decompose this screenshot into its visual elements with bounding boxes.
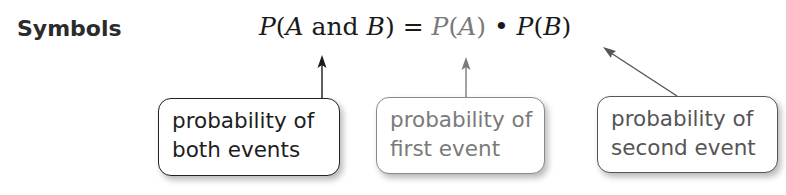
arrow-first-event [462,57,471,97]
arrow-second-event [603,47,677,96]
label-first-line2: first event [390,134,544,163]
label-both-line2: both events [172,135,339,164]
label-second-line2: second event [611,133,777,162]
label-box-second-event: probability of second event [597,96,778,173]
label-box-both-events: probability of both events [158,98,340,176]
arrow-second-head [603,47,616,58]
label-first-line1: probability of [390,105,544,134]
arrow-both-events [318,55,327,98]
label-both-line1: probability of [172,106,339,135]
label-box-first-event: probability of first event [376,97,545,174]
probability-symbols-figure: Symbols P(A and B) = P(A) • P(B) probabi… [0,0,786,195]
label-second-line1: probability of [611,104,777,133]
arrow-second-line [611,53,677,96]
